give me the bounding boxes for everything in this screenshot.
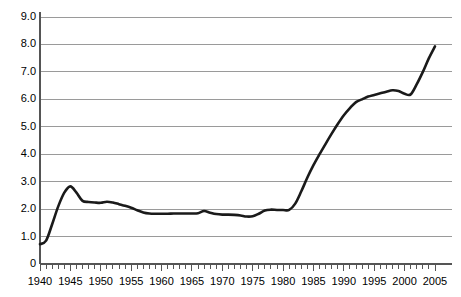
x-tick-label: 2005 [415, 276, 455, 287]
x-axis-tick-labels: 1940194519501955196019651970197519801985… [0, 0, 461, 297]
line-chart: 01.02.03.04.05.06.07.08.09.0 19401945195… [0, 0, 461, 297]
